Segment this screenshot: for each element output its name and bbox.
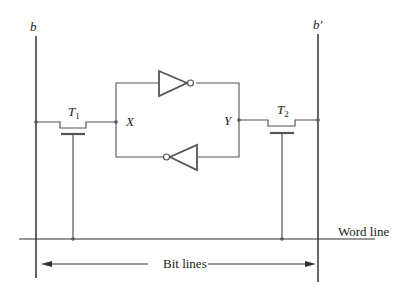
sram-cell-diagram: [0, 0, 414, 291]
label-t1-sub: 1: [75, 111, 80, 121]
transistor-t1: [36, 122, 116, 239]
inverter-top: [159, 71, 194, 96]
transistor-t2: [239, 120, 318, 239]
label-word-line: Word line: [338, 225, 389, 238]
label-bit-lines: Bit lines: [163, 257, 207, 270]
junction-dots: [34, 118, 320, 241]
label-bit-line-b-prime: b′: [313, 18, 322, 31]
inverter-loop: [116, 83, 239, 157]
inverter-bottom: [164, 145, 198, 170]
label-node-x: X: [126, 115, 134, 128]
label-node-y: Y: [224, 114, 231, 127]
label-t2: T2: [277, 103, 289, 119]
label-t1: T1: [68, 105, 80, 121]
label-t2-sub: 2: [284, 109, 289, 119]
label-bit-line-b: b: [30, 20, 37, 33]
